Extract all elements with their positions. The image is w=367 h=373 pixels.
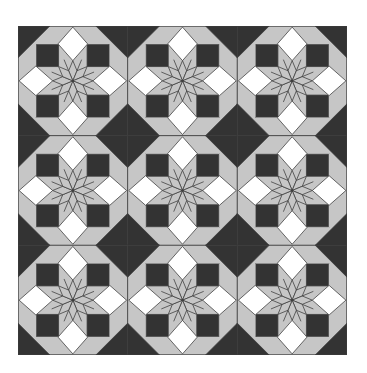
- quilt-block: [128, 26, 238, 136]
- dark-square: [306, 95, 328, 117]
- dark-square: [146, 264, 168, 286]
- dark-square: [87, 95, 109, 117]
- dark-square: [37, 95, 59, 117]
- star-center: [181, 299, 183, 301]
- star-center: [72, 80, 74, 82]
- dark-square: [306, 264, 328, 286]
- dark-square: [197, 205, 219, 227]
- quilt-block: [18, 245, 128, 355]
- quilt-block: [237, 136, 347, 246]
- dark-square: [306, 45, 328, 67]
- quilt-svg: [18, 26, 347, 355]
- star-center: [72, 189, 74, 191]
- dark-square: [146, 314, 168, 336]
- dark-square: [197, 95, 219, 117]
- quilt-block: [128, 136, 238, 246]
- dark-square: [37, 45, 59, 67]
- dark-square: [197, 45, 219, 67]
- dark-square: [146, 154, 168, 176]
- star-center: [72, 299, 74, 301]
- dark-square: [197, 314, 219, 336]
- star-center: [181, 189, 183, 191]
- dark-square: [37, 205, 59, 227]
- dark-square: [256, 154, 278, 176]
- quilt-block: [18, 136, 128, 246]
- quilt-pattern: [18, 26, 347, 355]
- dark-square: [37, 314, 59, 336]
- dark-square: [37, 264, 59, 286]
- dark-square: [306, 205, 328, 227]
- quilt-block: [237, 26, 347, 136]
- quilt-block: [128, 245, 238, 355]
- dark-square: [306, 154, 328, 176]
- dark-square: [87, 154, 109, 176]
- dark-square: [87, 264, 109, 286]
- dark-square: [256, 314, 278, 336]
- dark-square: [256, 264, 278, 286]
- dark-square: [256, 95, 278, 117]
- dark-square: [87, 205, 109, 227]
- star-center: [181, 80, 183, 82]
- dark-square: [256, 205, 278, 227]
- quilt-block: [237, 245, 347, 355]
- star-center: [291, 299, 293, 301]
- dark-square: [306, 314, 328, 336]
- dark-square: [87, 45, 109, 67]
- dark-square: [146, 205, 168, 227]
- dark-square: [87, 314, 109, 336]
- quilt-block: [18, 26, 128, 136]
- dark-square: [197, 154, 219, 176]
- dark-square: [197, 264, 219, 286]
- dark-square: [37, 154, 59, 176]
- dark-square: [256, 45, 278, 67]
- star-center: [291, 189, 293, 191]
- star-center: [291, 80, 293, 82]
- dark-square: [146, 95, 168, 117]
- dark-square: [146, 45, 168, 67]
